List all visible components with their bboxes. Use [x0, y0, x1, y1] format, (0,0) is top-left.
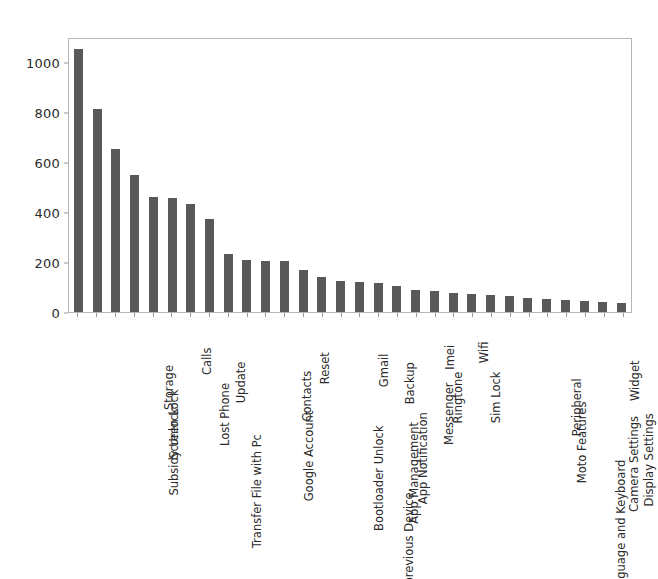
bar-slot	[350, 39, 369, 312]
x-axis-tick-mark	[341, 313, 342, 317]
y-axis-tick-label: 200	[35, 256, 60, 271]
x-axis-tick-mark	[435, 313, 436, 317]
x-axis-tick: Widget	[576, 313, 595, 563]
x-axis-tick: App Management	[294, 313, 313, 563]
bar	[598, 302, 607, 313]
x-axis-tick-mark	[209, 313, 210, 317]
x-axis-tick-mark	[77, 313, 78, 317]
x-axis-tick: Update	[181, 313, 200, 563]
bar	[561, 300, 570, 312]
y-axis-tick-label: 1000	[26, 56, 60, 71]
bar	[93, 109, 102, 312]
x-axis-tick: Gmail	[331, 313, 350, 563]
x-axis-tick: Language and Keyboard	[463, 313, 482, 563]
bar	[617, 303, 626, 312]
x-axis-tick-mark	[265, 313, 266, 317]
x-axis-tick: Reset	[275, 313, 294, 563]
bar	[317, 277, 326, 313]
x-axis-tick: Camera Settings	[519, 313, 538, 563]
x-axis-tick-mark	[529, 313, 530, 317]
bar-slot	[462, 39, 481, 312]
x-axis-tick-mark	[153, 313, 154, 317]
bar	[523, 298, 532, 313]
bar-chart-figure: 02004006008001000 Subsidy UnlockScreen L…	[0, 0, 658, 579]
bar-slot	[200, 39, 219, 312]
x-axis-tick: Lost Phone	[143, 313, 162, 563]
bar-slot	[144, 39, 163, 312]
x-axis-tick: Vibration	[613, 313, 632, 563]
x-axis-tick: Wifi	[444, 313, 463, 563]
bar	[168, 198, 177, 313]
bar-slot	[481, 39, 500, 312]
bar-slot	[125, 39, 144, 312]
bar	[486, 295, 495, 312]
bar	[149, 197, 158, 313]
bar-slot	[594, 39, 613, 312]
bar-slot	[556, 39, 575, 312]
bar-slot	[163, 39, 182, 312]
bar-slot	[88, 39, 107, 312]
x-axis-tick-mark	[397, 313, 398, 317]
x-axis-tick: Transfer File with Pc	[124, 313, 143, 563]
x-axis-tick-mark	[115, 313, 116, 317]
bar-slot	[612, 39, 631, 312]
bar-slot	[181, 39, 200, 312]
x-axis-tick-mark	[228, 313, 229, 317]
x-axis-tick-mark	[247, 313, 248, 317]
bar	[299, 270, 308, 312]
bar	[242, 260, 251, 312]
bar	[580, 301, 589, 312]
x-axis-tick-mark	[416, 313, 417, 317]
bar-slot	[575, 39, 594, 312]
y-axis-tick-label: 0	[52, 306, 60, 321]
bar	[430, 291, 439, 312]
x-axis-tick: Bootloader Unlock	[256, 313, 275, 563]
x-axis-tick: Subsidy Unlock	[68, 313, 87, 563]
bar	[392, 286, 401, 312]
x-axis-tick: Backup	[350, 313, 369, 563]
x-axis-tick-mark	[604, 313, 605, 317]
x-axis-tick-mark	[510, 313, 511, 317]
x-axis-tick-mark	[134, 313, 135, 317]
x-axis-tick-mark	[96, 313, 97, 317]
y-axis-tick-label: 400	[35, 206, 60, 221]
x-axis-tick: Imei	[406, 313, 425, 563]
bar-slot	[275, 39, 294, 312]
bar-slot	[69, 39, 88, 312]
x-axis-tick-mark	[472, 313, 473, 317]
bar-slot	[106, 39, 125, 312]
x-axis-tick: Moto Features	[482, 313, 501, 563]
bar	[505, 296, 514, 312]
bar	[374, 283, 383, 312]
bar	[186, 204, 195, 312]
bar	[449, 293, 458, 312]
bar	[111, 149, 120, 312]
bar	[411, 290, 420, 312]
y-axis: 02004006008001000	[0, 38, 68, 313]
bar-slot	[369, 39, 388, 312]
bar	[74, 49, 83, 312]
bar-slot	[500, 39, 519, 312]
x-axis-tick-mark	[623, 313, 624, 317]
bar	[261, 261, 270, 312]
y-axis-tick-label: 600	[35, 156, 60, 171]
bar-slot	[444, 39, 463, 312]
bar-slot	[387, 39, 406, 312]
x-axis-tick: Peripheral	[500, 313, 519, 563]
x-axis-tick-mark	[284, 313, 285, 317]
bar-slot	[313, 39, 332, 312]
x-axis-tick: Google Account	[200, 313, 219, 563]
x-axis-tick-mark	[453, 313, 454, 317]
bar	[224, 254, 233, 312]
bar-slot	[406, 39, 425, 312]
bar-slot	[331, 39, 350, 312]
bars-layer	[69, 39, 631, 312]
x-axis-tick: Sim Lock	[425, 313, 444, 563]
x-axis-tick: Screen Lock	[87, 313, 106, 563]
plot-area	[68, 38, 632, 313]
bar-slot	[537, 39, 556, 312]
x-axis: Subsidy UnlockScreen LockStorageTransfer…	[68, 313, 632, 563]
x-axis-tick: Display Settings	[538, 313, 557, 563]
x-axis-tick-mark	[190, 313, 191, 317]
bar-slot	[294, 39, 313, 312]
